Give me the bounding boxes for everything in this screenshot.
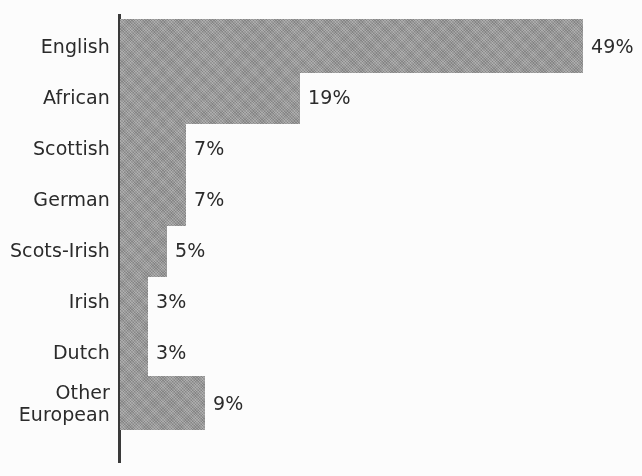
bar-row: Irish3% <box>0 274 642 328</box>
bar-category-label: English <box>41 35 110 57</box>
bar-category-label: German <box>33 188 110 210</box>
bar-rect <box>120 223 167 277</box>
bar-rect <box>120 274 148 328</box>
bar-row: Scots-Irish5% <box>0 223 642 277</box>
bar-value-label: 3% <box>156 343 186 362</box>
bar-row: Scottish7% <box>0 121 642 175</box>
bar-category-label: Scots-Irish <box>10 239 110 261</box>
plot-area: English49%African19%Scottish7%German7%Sc… <box>0 0 642 476</box>
bar-category-label: Irish <box>69 290 110 312</box>
bar-rect <box>120 70 300 124</box>
bar-rect <box>120 325 148 379</box>
bar-rect <box>120 376 205 430</box>
bar-value-label: 19% <box>308 88 351 107</box>
bar-value-label: 7% <box>194 190 224 209</box>
bar-row: Dutch3% <box>0 325 642 379</box>
bar-row: Other European9% <box>0 376 642 430</box>
bar-category-label: Scottish <box>33 137 110 159</box>
bar-value-label: 49% <box>591 37 634 56</box>
bar-rect <box>120 19 583 73</box>
bar-row: German7% <box>0 172 642 226</box>
bar-rect <box>120 172 186 226</box>
bar-value-label: 7% <box>194 139 224 158</box>
bar-chart-figure: English49%African19%Scottish7%German7%Sc… <box>0 0 642 476</box>
bar-row: English49% <box>0 19 642 73</box>
bar-value-label: 5% <box>175 241 205 260</box>
bar-value-label: 9% <box>213 394 243 413</box>
bar-category-label: Dutch <box>53 341 110 363</box>
bar-category-label: Other European <box>19 381 110 425</box>
bar-rect <box>120 121 186 175</box>
bar-row: African19% <box>0 70 642 124</box>
bar-category-label: African <box>43 86 110 108</box>
bar-value-label: 3% <box>156 292 186 311</box>
